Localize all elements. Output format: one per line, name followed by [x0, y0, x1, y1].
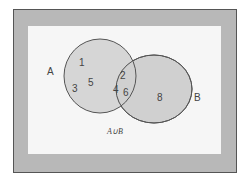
set-b-label: B — [194, 93, 201, 103]
element-5: 5 — [88, 78, 94, 88]
element-3: 3 — [72, 84, 78, 94]
element-1: 1 — [79, 58, 85, 68]
set-a-label: A — [47, 67, 54, 77]
caption: A∪B — [107, 127, 123, 136]
element-8: 8 — [157, 93, 163, 103]
element-4: 4 — [113, 85, 119, 95]
element-2: 2 — [120, 71, 126, 81]
element-6: 6 — [123, 88, 129, 98]
